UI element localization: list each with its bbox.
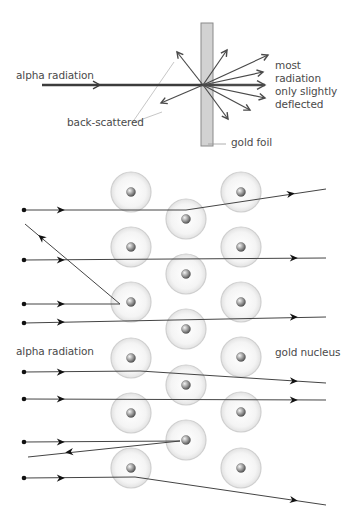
gold-nucleus-icon [182, 215, 191, 224]
alpha-particle-dot [22, 208, 27, 213]
gold-nucleus-icon [127, 409, 136, 418]
gold-nucleus-icon [237, 298, 246, 307]
path-8-deflected-down [22, 474, 326, 505]
label-gold-foil: gold foil [231, 136, 272, 149]
trajectory-line [24, 441, 180, 457]
alpha-particle-dot [22, 397, 27, 402]
path-7-reflected [22, 438, 180, 457]
trajectory-line [24, 399, 326, 400]
arrow-head-icon [65, 448, 73, 455]
gold-nucleus-icon [237, 353, 246, 362]
gold-atom [111, 227, 151, 267]
label-alpha-radiation-top: alpha radiation [16, 69, 94, 82]
gold-nucleus-icon [127, 464, 136, 473]
gold-nucleus-icon [237, 408, 246, 417]
alpha-particle-dot [22, 258, 27, 263]
gold-nucleus-icon [127, 298, 136, 307]
alpha-particle-dot [22, 370, 27, 375]
gold-atom [166, 309, 206, 349]
gold-atom [166, 254, 206, 294]
gold-nucleus-icon [182, 270, 191, 279]
gold-atom [111, 448, 151, 488]
trajectory-line [24, 224, 120, 304]
gold-nucleus-icon [127, 243, 136, 252]
label-alpha-radiation-bottom: alpha radiation [16, 345, 94, 358]
gold-nucleus-icon [127, 188, 136, 197]
gold-nucleus-icon [237, 243, 246, 252]
gold-nucleus-icon [182, 325, 191, 334]
label-most-radiation-deflected: most radiation only slightly deflected [275, 59, 345, 111]
alpha-particle-dot [22, 440, 27, 445]
alpha-particle-dot [22, 321, 27, 326]
trajectory-line [24, 477, 326, 505]
label-gold-nucleus: gold nucleus [275, 346, 340, 359]
scatter-arrow-back-down-left [161, 85, 203, 103]
alpha-particle-dot [22, 302, 27, 307]
label-back-scattered: back-scattered [67, 116, 144, 129]
gold-atom [221, 282, 261, 322]
gold-nucleus-icon [182, 381, 191, 390]
gold-atom [166, 420, 206, 460]
alpha-particle-dot [22, 476, 27, 481]
gold-atom [221, 337, 261, 377]
path-1-deflected-up [22, 189, 326, 214]
gold-nucleus-icon [127, 354, 136, 363]
gold-atom [221, 448, 261, 488]
gold-nucleus-icon [182, 436, 191, 445]
path-3-reflected [22, 224, 120, 308]
scatter-arrow-back-up-left [177, 52, 203, 85]
gold-atom [111, 338, 151, 378]
gold-atom [166, 199, 206, 239]
arrow-head-icon [290, 313, 298, 320]
gold-atom [221, 227, 261, 267]
gold-atom [221, 172, 261, 212]
gold-atom-lattice [111, 172, 261, 488]
gold-nucleus-icon [237, 188, 246, 197]
gold-nucleus-icon [237, 464, 246, 473]
gold-atom [221, 392, 261, 432]
leader-line [132, 62, 174, 123]
gold-atom [111, 172, 151, 212]
